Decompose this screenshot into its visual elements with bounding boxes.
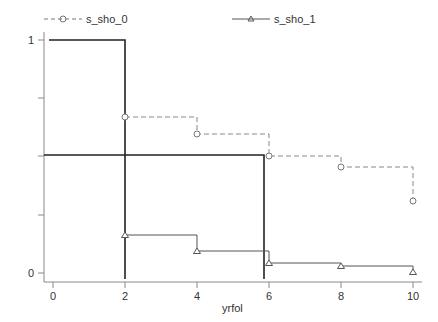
x-tick-label: 2 — [122, 290, 128, 302]
survival-chart: s_sho_0 s_sho_1 1 0 0 2 4 6 8 10 yrfol — [0, 0, 438, 322]
legend-label-s-sho-1: s_sho_1 — [274, 13, 316, 25]
x-tick-label: 8 — [338, 290, 344, 302]
median-lines — [44, 40, 264, 279]
x-tick-label: 4 — [194, 290, 200, 302]
x-axis-label: yrfol — [222, 302, 243, 314]
y-tick-label: 0 — [28, 267, 34, 279]
series-s-sho-0 — [122, 114, 416, 204]
axes: 1 0 0 2 4 6 8 10 yrfol — [28, 32, 422, 314]
legend: s_sho_0 s_sho_1 — [44, 13, 316, 25]
y-tick-label: 1 — [28, 34, 34, 46]
legend-label-s-sho-0: s_sho_0 — [86, 13, 128, 25]
series-s-sho-1 — [122, 232, 417, 275]
x-tick-label: 0 — [50, 290, 56, 302]
x-tick-label: 10 — [407, 290, 419, 302]
x-tick-label: 6 — [266, 290, 272, 302]
